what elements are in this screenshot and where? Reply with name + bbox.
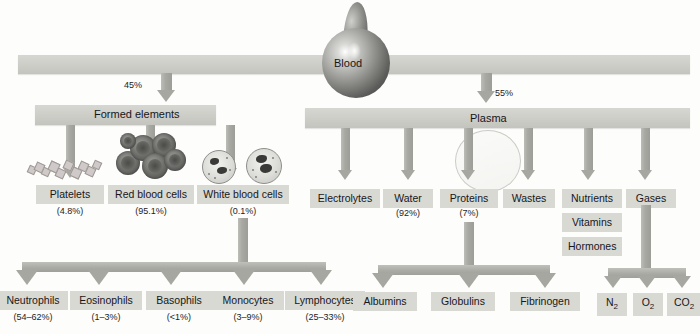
label-globulins: Globulins xyxy=(431,292,495,311)
nutrients-arrow xyxy=(581,170,595,180)
percent-water: (92%) xyxy=(383,208,433,218)
electrolytes-stem xyxy=(341,128,350,172)
nitrogen-arrow xyxy=(604,276,622,288)
label-platelets: Platelets xyxy=(36,185,104,204)
label-vitamins: Vitamins xyxy=(562,213,622,232)
label-eosinophils: Eosinophils xyxy=(70,291,142,310)
formed-elements-arrow xyxy=(157,90,175,102)
nitrogen-subscript: 2 xyxy=(614,302,618,311)
water-arrow xyxy=(401,170,415,180)
water-stem xyxy=(404,128,413,172)
gases-arrow xyxy=(638,170,652,180)
protein-drop-stem xyxy=(464,222,474,266)
carbon-dioxide-arrow xyxy=(673,276,691,288)
percent-red-blood-cells: (95.1%) xyxy=(108,206,194,216)
blood-bar-label: Blood xyxy=(334,57,362,69)
percent-basophils: (<1%) xyxy=(146,312,212,322)
wastes-arrow xyxy=(521,170,535,180)
label-nutrients: Nutrients xyxy=(562,189,622,208)
blood-composition-diagram: Blood 45% 55% Formed elements Plasma xyxy=(0,0,700,334)
label-wastes: Wastes xyxy=(503,189,555,208)
proteins-arrow xyxy=(461,170,475,180)
percent-white-blood-cells: (0.1%) xyxy=(197,206,289,216)
proteins-stem xyxy=(464,128,473,172)
label-basophils: Basophils xyxy=(146,291,212,310)
label-water: Water xyxy=(383,189,433,208)
monocytes-arrow xyxy=(233,270,255,285)
formed-elements-percent: 45% xyxy=(124,80,142,90)
label-electrolytes: Electrolytes xyxy=(310,189,380,208)
label-carbon-dioxide: CO2 xyxy=(667,293,700,316)
oxygen-symbol: O xyxy=(642,296,650,308)
plasma-bar-label: Plasma xyxy=(470,112,507,124)
label-albumins: Albumins xyxy=(353,292,417,311)
wastes-stem xyxy=(524,128,533,172)
label-red-blood-cells: Red blood cells xyxy=(108,185,194,204)
percent-neutrophils: (54–62%) xyxy=(0,312,68,322)
gases-stem xyxy=(641,128,650,172)
platelet-cluster-icon xyxy=(26,158,98,180)
label-oxygen: O2 xyxy=(633,293,663,316)
lymphocytes-arrow xyxy=(310,270,332,285)
plasma-arrow xyxy=(477,91,495,103)
gases-drop-stem xyxy=(641,205,651,269)
oxygen-arrow xyxy=(638,276,656,288)
white-blood-cell-icon xyxy=(202,148,284,184)
percent-eosinophils: (1–3%) xyxy=(70,312,142,322)
neutrophils-arrow xyxy=(16,270,38,285)
label-gases: Gases xyxy=(626,189,676,208)
globulins-arrow xyxy=(458,273,480,288)
percent-proteins: (7%) xyxy=(440,208,498,218)
carbon-dioxide-symbol: CO xyxy=(674,296,690,308)
plasma-percent: 55% xyxy=(495,88,513,98)
eosinophils-arrow xyxy=(88,270,110,285)
percent-platelets: (4.8%) xyxy=(36,206,104,216)
basophils-arrow xyxy=(160,270,182,285)
nitrogen-symbol: N xyxy=(606,296,614,308)
blood-drop-icon xyxy=(322,2,390,98)
label-nitrogen: N2 xyxy=(597,293,627,316)
label-monocytes: Monocytes xyxy=(212,291,284,310)
percent-lymphocytes: (25–33%) xyxy=(285,312,365,322)
leukocyte-drop-stem xyxy=(238,218,248,264)
nutrients-stem xyxy=(584,128,593,172)
red-blood-cell-icon xyxy=(112,133,188,181)
carbon-dioxide-subscript: 2 xyxy=(690,302,694,311)
label-white-blood-cells: White blood cells xyxy=(197,185,289,204)
formed-elements-bar-label: Formed elements xyxy=(94,108,180,120)
label-hormones: Hormones xyxy=(562,237,622,256)
oxygen-subscript: 2 xyxy=(650,302,654,311)
label-neutrophils: Neutrophils xyxy=(0,291,68,310)
label-fibrinogen: Fibrinogen xyxy=(510,292,580,311)
electrolytes-arrow xyxy=(338,170,352,180)
label-proteins: Proteins xyxy=(440,189,498,208)
fibrinogen-arrow xyxy=(534,273,556,288)
percent-monocytes: (3–9%) xyxy=(212,312,284,322)
albumins-arrow xyxy=(372,273,394,288)
